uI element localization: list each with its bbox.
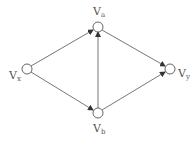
edge-vx-va	[31, 30, 93, 66]
edge-va-vy	[102, 30, 165, 66]
edge-vx-vb	[31, 72, 93, 110]
nodes	[22, 22, 175, 118]
label-vb: Vb	[92, 122, 106, 136]
label-vy: Vy	[177, 67, 190, 81]
label-vx: Vx	[8, 69, 21, 83]
node-va	[93, 22, 103, 32]
edges	[31, 30, 165, 110]
node-vy	[165, 64, 175, 74]
graph-canvas: Vx Va Vb Vy	[0, 0, 195, 141]
node-vb	[93, 108, 103, 118]
node-vx	[22, 64, 32, 74]
label-va: Va	[92, 5, 105, 19]
edge-vb-vy	[102, 72, 165, 110]
